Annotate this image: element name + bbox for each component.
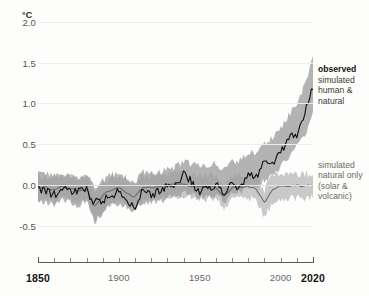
x-axis-cap <box>313 257 314 263</box>
legend-natural-line-1: simulated <box>318 160 362 170</box>
x-minor-tick <box>119 258 120 262</box>
x-minor-tick <box>87 258 88 262</box>
legend-observed-title: observed <box>318 64 356 75</box>
gridline <box>38 103 313 104</box>
y-tick-label: -0.5 <box>2 220 36 231</box>
x-minor-tick <box>184 258 185 262</box>
x-minor-tick <box>103 258 104 262</box>
x-minor-tick <box>281 258 282 262</box>
x-tick-label: 1850 <box>26 272 50 284</box>
x-minor-tick <box>264 258 265 262</box>
legend-observed: observed simulated human & natural <box>318 64 356 106</box>
x-minor-tick <box>151 258 152 262</box>
x-minor-tick <box>167 258 168 262</box>
gridline <box>38 22 313 23</box>
x-minor-tick <box>216 258 217 262</box>
legend-observed-line-3: natural <box>318 96 356 106</box>
x-axis-line <box>38 262 313 263</box>
y-tick-label: 1.0 <box>2 98 36 109</box>
gridline <box>38 226 313 227</box>
x-tick-label: 2020 <box>301 272 325 284</box>
x-minor-tick <box>54 258 55 262</box>
legend-observed-line-2: human & <box>318 85 356 95</box>
chart-root: °C 2.01.51.00.50.0-0.5 18501900195020002… <box>0 0 369 296</box>
legend-observed-line-1: simulated <box>318 75 356 85</box>
legend-natural-line-2: natural only <box>318 170 362 180</box>
y-tick-label: 0.0 <box>2 179 36 190</box>
y-tick-label: 1.5 <box>2 57 36 68</box>
gridline <box>38 144 313 145</box>
y-axis-tick-labels: 2.01.51.00.50.0-0.5 <box>0 0 36 296</box>
plot-area <box>38 22 313 242</box>
legend-natural-only: simulated natural only (solar & volcanic… <box>318 160 362 202</box>
x-minor-tick <box>248 258 249 262</box>
gridline <box>38 63 313 64</box>
y-tick-label: 0.5 <box>2 139 36 150</box>
gridline <box>38 185 313 186</box>
x-minor-tick <box>135 258 136 262</box>
x-tick-label: 1950 <box>189 272 211 283</box>
gridlines <box>38 22 313 242</box>
legend-natural-line-3: (solar & <box>318 181 362 191</box>
x-minor-tick <box>70 258 71 262</box>
legend-natural-line-4: volcanic) <box>318 191 362 201</box>
x-minor-tick <box>232 258 233 262</box>
x-minor-tick <box>297 258 298 262</box>
x-tick-label: 1900 <box>108 272 130 283</box>
x-minor-tick <box>200 258 201 262</box>
x-tick-label: 2000 <box>270 272 292 283</box>
x-axis-cap <box>38 257 39 263</box>
y-tick-label: 2.0 <box>2 17 36 28</box>
